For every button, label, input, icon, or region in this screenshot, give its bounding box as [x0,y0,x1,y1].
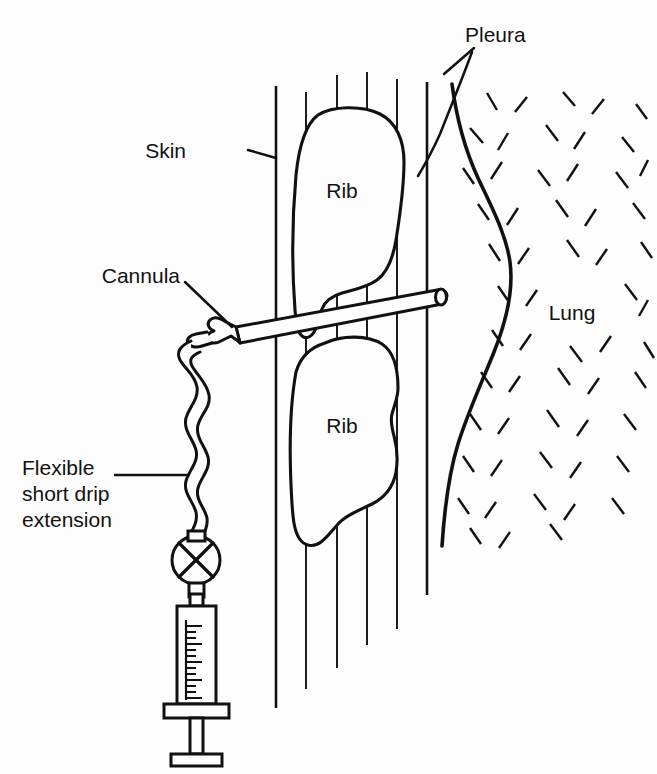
rib-upper-label: Rib [326,179,358,202]
tap-upper-port [188,531,205,541]
diagram-figure: Rib Rib [0,0,657,774]
syringe-plunger-rod [190,718,203,754]
flexible-extension-label-line2: short drip [22,482,110,505]
rib-lower-outline [290,337,398,545]
cannula-hub-wings [207,318,240,343]
cannula-shaft [236,290,447,343]
flexible-extension-label: Flexible short drip extension [22,456,112,531]
skin-leader-line [248,150,276,158]
lung-label: Lung [549,301,596,324]
three-way-tap[interactable] [172,531,220,597]
flexible-extension-label-line3: extension [22,508,112,531]
skin-label: Skin [145,139,186,162]
syringe[interactable] [164,594,229,766]
pleura-curve [442,84,511,546]
pleura-label: Pleura [465,23,526,46]
cannula-label: Cannula [102,264,181,287]
anatomical-diagram-svg: Rib Rib [0,0,657,774]
syringe-thumb-pad [171,754,222,766]
rib-lower-label: Rib [326,414,358,437]
syringe-flange [164,704,229,718]
rib-lower: Rib [290,337,398,545]
syringe-barrel [177,606,216,704]
syringe-nozzle [190,594,203,606]
flexible-drip-extension [178,341,209,537]
flexible-extension-label-line1: Flexible [22,456,94,479]
cannula-tip [436,289,447,305]
